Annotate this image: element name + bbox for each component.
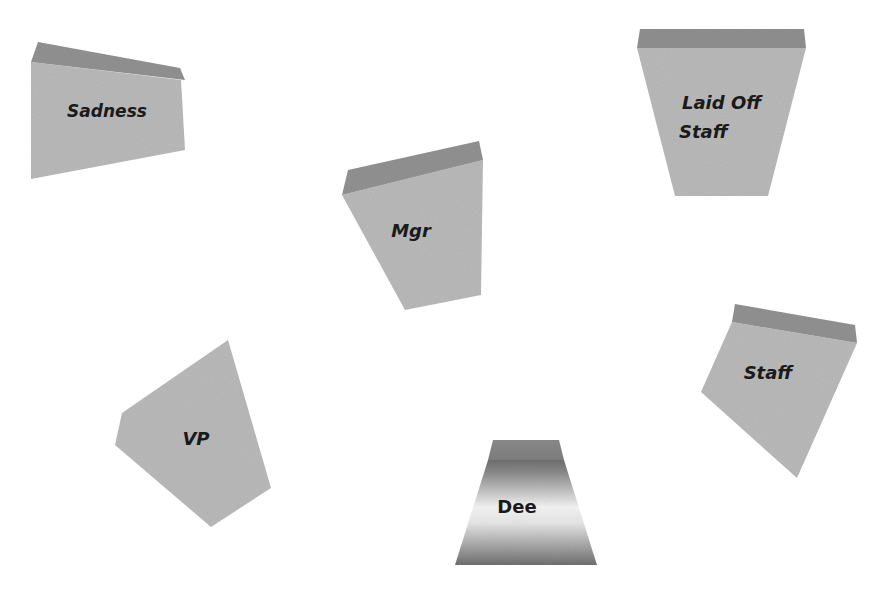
block-laid-off-staff-label-line2: Staff [679, 121, 730, 142]
block-dee-top [488, 440, 564, 460]
block-vp-label: VP [182, 428, 209, 449]
block-staff[interactable]: Staff [701, 304, 857, 478]
block-laid-off-staff-top [637, 29, 806, 48]
block-staff-label: Staff [744, 362, 795, 383]
block-dee[interactable]: Dee [455, 440, 597, 565]
diagram-canvas: Sadness Laid Off Staff Mgr VP Staff Dee [0, 0, 883, 606]
block-mgr[interactable]: Mgr [342, 141, 483, 310]
block-laid-off-staff[interactable]: Laid Off Staff [637, 29, 806, 196]
block-laid-off-staff-label-line1: Laid Off [682, 92, 763, 113]
block-dee-label: Dee [497, 496, 536, 517]
block-vp[interactable]: VP [115, 340, 271, 527]
block-mgr-label: Mgr [391, 220, 432, 241]
block-sadness-label: Sadness [67, 101, 147, 121]
block-sadness[interactable]: Sadness [31, 42, 185, 179]
block-staff-face [701, 322, 857, 478]
